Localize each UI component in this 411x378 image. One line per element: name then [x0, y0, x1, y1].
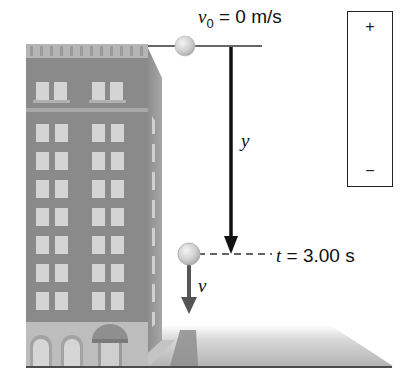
displacement-label: y [241, 131, 249, 150]
initial-velocity-label: v0 = 0 m/s [198, 7, 282, 26]
initial-velocity-value: = 0 m/s [214, 6, 282, 27]
velocity-arrow [181, 262, 197, 314]
sign-convention-box: + − [347, 11, 393, 187]
free-fall-diagram: v0 = 0 m/s y t = 3.00 s v + − [0, 0, 411, 378]
ball-initial [175, 36, 195, 56]
velocity-label: v [198, 276, 206, 295]
time-label: t = 3.00 s [276, 246, 355, 265]
ball-at-t [178, 243, 200, 265]
plus-sign: + [348, 18, 392, 36]
building [26, 44, 148, 366]
displacement-arrow [224, 47, 238, 254]
velocity-subscript: 0 [206, 16, 213, 31]
time-value: = 3.00 s [281, 245, 354, 266]
minus-sign: − [348, 162, 392, 180]
